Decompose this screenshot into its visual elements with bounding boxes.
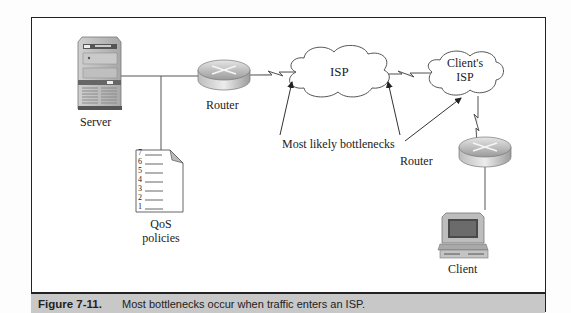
client-isp-label-line: ISP — [441, 70, 489, 84]
router-icon — [459, 137, 511, 167]
caption-text: Most bottlenecks occur when traffic ente… — [122, 298, 365, 310]
qos-number: 3 — [138, 184, 142, 193]
qos-number: 1 — [138, 202, 142, 211]
server-icon — [78, 37, 122, 110]
qos-label-line: policies — [139, 231, 183, 245]
client-computer-icon — [438, 213, 488, 258]
router-label: Router — [206, 98, 239, 113]
client-label: Client — [448, 262, 477, 277]
qos-number: 7 — [138, 148, 142, 157]
qos-number: 5 — [138, 166, 142, 175]
network-diagram — [0, 0, 571, 313]
isp-label: ISP — [330, 64, 349, 80]
router-icon — [198, 60, 250, 90]
figure-caption: Figure 7-11. Most bottlenecks occur when… — [31, 292, 545, 313]
server-label: Server — [80, 115, 111, 130]
qos-label-line: QoS — [139, 217, 183, 231]
bottleneck-label: Most likely bottlenecks — [282, 137, 395, 152]
figure-number: Figure 7-11. — [38, 298, 122, 310]
qos-policies-label: QoS policies — [139, 217, 183, 245]
router-label: Router — [400, 154, 433, 169]
qos-number: 2 — [138, 193, 142, 202]
qos-list-numbers: 7 6 5 4 3 2 1 — [138, 148, 142, 211]
qos-number: 4 — [138, 175, 142, 184]
qos-policy-document-icon — [136, 150, 183, 212]
client-isp-label: Client's ISP — [441, 56, 489, 84]
qos-number: 6 — [138, 157, 142, 166]
client-isp-label-line: Client's — [441, 56, 489, 70]
